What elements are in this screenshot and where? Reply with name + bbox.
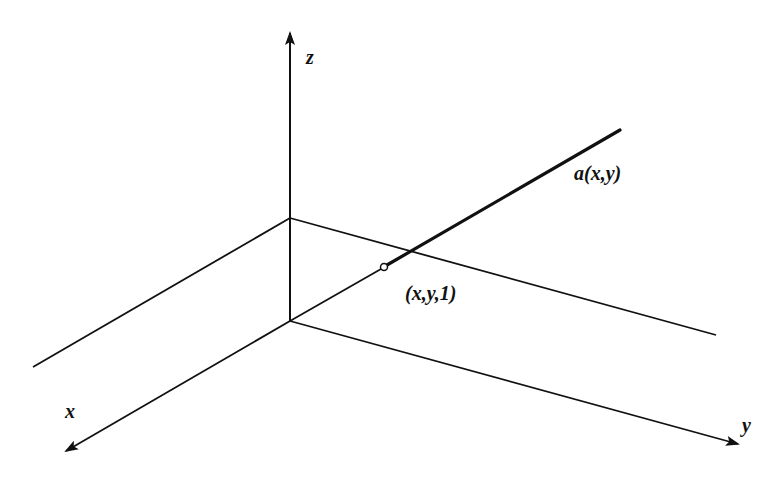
ray-a-xy xyxy=(387,130,620,265)
plane-edge-y xyxy=(290,218,716,335)
y-axis xyxy=(290,321,738,444)
coordinate-diagram: z x y a(x,y) (x,y,1) xyxy=(0,0,779,485)
point-label: (x,y,1) xyxy=(405,282,456,305)
y-axis-label: y xyxy=(740,414,751,437)
plane-edge-x xyxy=(33,218,290,367)
ray-segment-origin-to-point xyxy=(290,269,381,321)
z-axis-label: z xyxy=(305,46,314,68)
x-axis xyxy=(66,321,290,451)
ray-label: a(x,y) xyxy=(574,162,621,185)
point-marker xyxy=(381,264,388,271)
x-axis-label: x xyxy=(64,400,75,422)
